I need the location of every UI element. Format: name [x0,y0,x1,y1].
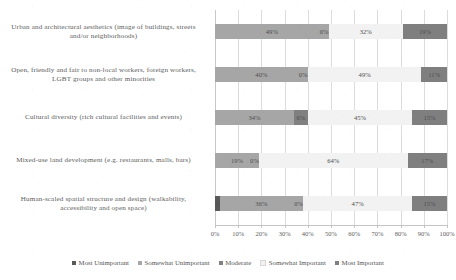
bar-segment: 49% [215,24,329,39]
bar-value-label: 17% [421,153,433,168]
category-label: Urban and architectural aesthetics (imag… [2,23,205,40]
x-axis-tick-label: 30% [274,229,296,238]
x-axis-tick-label: 0% [204,229,226,238]
category-label: Mixed-use land development (e.g. restaur… [2,156,205,165]
bar-value-label: 34% [248,110,260,125]
bar-segment: 45% [308,110,412,125]
legend-swatch [138,261,142,265]
bar-value-label: 6% [296,110,305,125]
x-axis-tick-label: 20% [250,229,272,238]
x-axis-tick [447,225,448,228]
bar-segment: 36% [220,196,304,211]
legend-label: Moderate [225,258,251,268]
bar-value-label: 40% [255,67,267,82]
bar-value-label: 64% [327,153,339,168]
bar-value-label: 19% [231,153,243,168]
legend-label: Somewhat Unimportant [145,258,210,268]
bar-value-label: 36% [255,196,267,211]
bar-value-label: 15% [424,110,436,125]
legend-swatch [335,261,339,265]
x-axis-tick-label: 40% [297,229,319,238]
bar-value-label: 19% [419,24,431,39]
x-axis-tick [377,225,378,228]
bar-value-label: 15% [424,196,436,211]
x-axis-tick-label: 50% [320,229,342,238]
category-axis-labels: Urban and architectural aesthetics (imag… [2,10,205,225]
x-axis-tick [354,225,355,228]
bar-row: 0%34%6%45%15% [215,110,447,125]
x-axis-tick-label: 90% [413,229,435,238]
x-axis-tick [238,225,239,228]
bar-row: 0%40%0%49%11% [215,67,447,82]
x-axis-tick [261,225,262,228]
x-axis-tick-label: 10% [227,229,249,238]
legend-item[interactable]: Moderate [219,258,252,268]
legend-item[interactable]: Most Unimportant [72,258,129,268]
bar-value-label: 32% [360,24,372,39]
bar-segment: 32% [329,24,403,39]
bar-value-label: 45% [354,110,366,125]
x-axis-tick-label: 100% [436,229,456,238]
bar-segment: 11% [421,67,447,82]
bar-row: 0%49%0%32%19% [215,24,447,39]
x-axis-tick [424,225,425,228]
x-axis-tick [401,225,402,228]
chart-legend: Most UnimportantSomewhat UnimportantMode… [0,256,456,270]
bar-segment: 15% [412,110,447,125]
x-axis-tick [308,225,309,228]
x-axis-tick-label: 80% [390,229,412,238]
bar-value-label: 11% [428,67,440,82]
bar-segment: 6% [294,110,308,125]
bar-row: 2%36%0%47%15% [215,196,447,211]
bar-value-label: 49% [359,67,371,82]
legend-swatch [72,261,76,265]
legend-swatch [219,261,223,265]
category-label: Cultural diversity (rich cultural facili… [2,113,205,122]
x-axis-tick [331,225,332,228]
x-axis-tick [215,225,216,228]
gridline [447,10,448,225]
plot-wrapper: Urban and architectural aesthetics (imag… [0,10,456,242]
stacked-bar-chart: Urban and architectural aesthetics (imag… [0,0,456,280]
bar-value-label: 47% [352,196,364,211]
legend-label: Somewhat Important [269,258,326,268]
x-axis-tick-label: 70% [366,229,388,238]
bar-segment: 34% [215,110,294,125]
legend-item[interactable]: Somewhat Important [260,258,326,268]
x-axis-tick-label: 60% [343,229,365,238]
bar-row: 0%19%0%64%17% [215,153,447,168]
x-axis-tick [285,225,286,228]
bar-value-label: 49% [266,24,278,39]
plot-area: 0%49%0%32%19%0%40%0%49%11%0%34%6%45%15%0… [215,10,447,225]
bar-segment: 47% [303,196,412,211]
bar-segment: 17% [408,153,447,168]
legend-label: Most Important [341,258,383,268]
bar-segment: 19% [403,24,447,39]
legend-swatch [260,260,266,266]
bar-segment: 15% [412,196,447,211]
category-label: Human-scaled spatial structure and desig… [2,195,205,212]
legend-item[interactable]: Somewhat Unimportant [138,258,210,268]
x-axis: 0%10%20%30%40%50%60%70%80%90%100% [215,225,447,241]
bar-segment: 49% [308,67,422,82]
legend-item[interactable]: Most Important [335,258,384,268]
bar-segment: 64% [259,153,407,168]
legend-label: Most Unimportant [79,258,129,268]
category-label: Open, friendly and fair to non-local wor… [2,66,205,83]
bar-segment: 40% [215,67,308,82]
